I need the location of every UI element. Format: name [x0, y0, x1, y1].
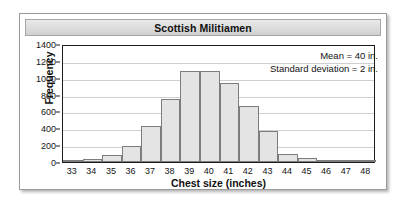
histogram-bar [63, 160, 83, 162]
y-tick-mark [56, 45, 60, 46]
x-axis-label: Chest size (inches) [62, 177, 375, 189]
histogram-bar [141, 126, 161, 162]
x-tick-label: 37 [145, 166, 155, 176]
x-tick-label: 35 [106, 166, 116, 176]
x-tick-label: 45 [302, 166, 312, 176]
y-tick-mark [56, 78, 60, 79]
chart-title-bar: Scottish Militiamen [25, 19, 381, 36]
y-tick-mark [56, 112, 60, 113]
histogram-bar [102, 155, 122, 162]
x-tick-label: 40 [204, 166, 214, 176]
x-tick-label: 38 [165, 166, 175, 176]
y-tick-mark [56, 95, 60, 96]
x-tick-label: 44 [282, 166, 292, 176]
histogram-bar [278, 154, 298, 162]
x-tick-label: 48 [360, 166, 370, 176]
page-title: Scottish Militiamen [154, 22, 252, 34]
histogram-bar [200, 71, 220, 162]
chart-annotation: Mean = 40 in. [270, 49, 378, 62]
histogram-bar [259, 131, 279, 162]
chart-annotation: Standard deviation = 2 in. [270, 62, 378, 75]
y-tick-label: 200 [41, 141, 56, 151]
chart-figure: Scottish Militiamen 02004006008001000120… [19, 13, 387, 190]
histogram-bar [83, 159, 103, 162]
histogram-bar [161, 99, 181, 162]
y-tick-mark [56, 129, 60, 130]
x-tick-label: 47 [341, 166, 351, 176]
histogram-bar [298, 158, 318, 162]
chart-annotations: Mean = 40 in.Standard deviation = 2 in. [270, 49, 378, 75]
x-tick-label: 36 [125, 166, 135, 176]
histogram-bar [220, 83, 240, 162]
x-tick-label: 39 [184, 166, 194, 176]
x-tick-label: 42 [243, 166, 253, 176]
y-axis-label: Frequency [43, 23, 55, 133]
histogram-bar [317, 160, 337, 162]
y-tick-mark [56, 61, 60, 62]
histogram-bar [180, 71, 200, 162]
x-tick-label: 33 [67, 166, 77, 176]
x-tick-label: 34 [86, 166, 96, 176]
y-tick-mark [56, 163, 60, 164]
x-tick-label: 43 [262, 166, 272, 176]
x-tick-label: 46 [321, 166, 331, 176]
x-tick-label: 41 [223, 166, 233, 176]
histogram-bar [356, 160, 376, 162]
histogram-bar [337, 160, 357, 162]
histogram-bar [122, 146, 142, 162]
histogram-bar [239, 106, 259, 162]
y-tick-mark [56, 146, 60, 147]
